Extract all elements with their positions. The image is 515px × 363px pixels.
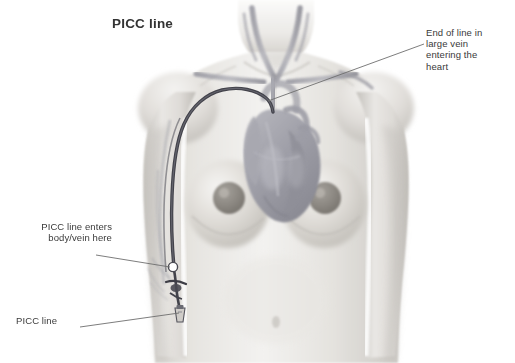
page-title: PICC line	[112, 16, 173, 31]
picc-line-illustration: PICC line End of line in large vein ente…	[0, 0, 515, 363]
catheter-hub-collar	[177, 305, 184, 309]
annotation-enters-body: PICC line enters body/vein here	[16, 221, 112, 243]
annotation-end-of-line: End of line in large vein entering the h…	[426, 27, 512, 72]
navel	[272, 316, 280, 328]
left-ventricle-chamber	[287, 152, 305, 188]
annotation-picc-line: PICC line	[16, 315, 86, 326]
left-areola	[213, 182, 245, 214]
catheter-hub	[175, 308, 185, 322]
abdomen-shading	[224, 256, 328, 344]
catheter-clamp	[171, 284, 182, 292]
left-areola-highlight	[219, 188, 229, 198]
right-ventricle-chamber	[260, 146, 284, 190]
